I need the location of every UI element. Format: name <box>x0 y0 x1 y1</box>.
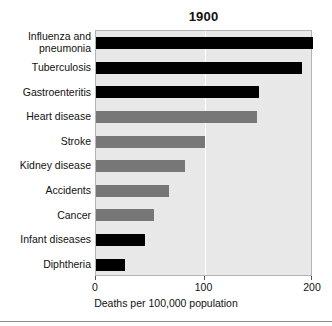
bar <box>96 62 302 74</box>
category-label: Influenza andpneumonia <box>0 30 91 54</box>
bar <box>96 185 169 197</box>
bar <box>96 111 257 123</box>
category-label-line: Kidney disease <box>0 159 91 171</box>
bottom-divider <box>0 321 332 322</box>
x-axis-ticks: 0100200 <box>95 276 312 294</box>
category-label-line: Stroke <box>0 135 91 147</box>
bars-layer <box>96 31 311 275</box>
category-label: Tuberculosis <box>0 61 91 73</box>
category-label: Infant diseases <box>0 233 91 245</box>
category-label-line: Diphtheria <box>0 258 91 270</box>
category-label: Diphtheria <box>0 258 91 270</box>
category-label-line: Heart disease <box>0 110 91 122</box>
category-label-line: Gastroenteritis <box>0 86 91 98</box>
category-label-line: Accidents <box>0 184 91 196</box>
bar <box>96 209 154 221</box>
category-label-line: pneumonia <box>0 42 91 54</box>
bar <box>96 160 185 172</box>
category-axis-labels: Influenza andpneumoniaTuberculosisGastro… <box>0 30 91 276</box>
category-label: Stroke <box>0 135 91 147</box>
chart-title: 1900 <box>95 9 312 24</box>
category-label: Kidney disease <box>0 159 91 171</box>
category-label-line: Cancer <box>0 209 91 221</box>
plot-area <box>95 30 312 276</box>
x-tick-mark <box>95 276 96 280</box>
category-label: Cancer <box>0 209 91 221</box>
x-tick-label: 100 <box>195 281 213 293</box>
bar <box>96 259 125 271</box>
category-label: Accidents <box>0 184 91 196</box>
x-tick-label: 0 <box>92 281 98 293</box>
category-label: Gastroenteritis <box>0 86 91 98</box>
category-label: Heart disease <box>0 110 91 122</box>
category-label-line: Influenza and <box>0 30 91 42</box>
category-label-line: Infant diseases <box>0 233 91 245</box>
x-tick-mark <box>311 276 312 280</box>
x-tick-mark <box>204 276 205 280</box>
x-axis-title: Deaths per 100,000 population <box>0 297 332 309</box>
category-label-line: Tuberculosis <box>0 61 91 73</box>
bar <box>96 136 205 148</box>
x-tick-label: 200 <box>303 281 321 293</box>
bar <box>96 86 259 98</box>
bar <box>96 37 313 49</box>
chart-figure: 1900 Influenza andpneumoniaTuberculosisG… <box>0 0 332 326</box>
bar <box>96 234 145 246</box>
